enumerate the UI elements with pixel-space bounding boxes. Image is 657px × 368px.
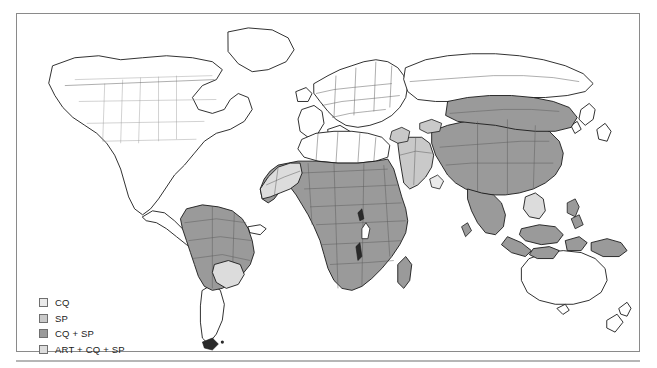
- region-north-africa: [298, 131, 390, 163]
- legend-swatch-art-cq-sp: [39, 345, 48, 354]
- region-south-asia: [462, 189, 506, 237]
- region-madagascar: [398, 257, 412, 289]
- region-southern-cone: [200, 284, 224, 344]
- region-cq-small: [430, 175, 444, 189]
- legend-item-cq-sp: CQ + SP: [39, 326, 125, 342]
- map-frame: CQ SP CQ + SP ART + CQ + SP: [16, 13, 640, 352]
- legend-label-cq-sp: CQ + SP: [55, 329, 94, 339]
- region-russia-siberia: [404, 54, 593, 102]
- region-new-zealand: [607, 302, 631, 332]
- region-caspian-edge: [420, 119, 442, 133]
- region-philippines: [567, 199, 583, 229]
- legend-swatch-cq: [39, 298, 48, 307]
- region-papua-new-guinea: [591, 239, 627, 257]
- map-figure: CQ SP CQ + SP ART + CQ + SP: [0, 0, 657, 368]
- region-middle-east-asia: [432, 96, 578, 195]
- region-north-america: [49, 56, 252, 215]
- legend-swatch-cq-sp: [39, 329, 48, 338]
- map-legend: CQ SP CQ + SP ART + CQ + SP: [39, 295, 125, 357]
- region-arabian-peninsula-rim: [398, 137, 434, 189]
- legend-item-art-cq-sp: ART + CQ + SP: [39, 342, 125, 358]
- legend-item-sp: SP: [39, 311, 125, 327]
- region-australia: [521, 251, 607, 315]
- legend-label-sp: SP: [55, 314, 68, 324]
- region-mainland-southeast-asia: [523, 193, 545, 219]
- region-greenland: [228, 28, 294, 72]
- legend-item-cq: CQ: [39, 295, 125, 311]
- figure-separator-rule: [16, 360, 640, 362]
- legend-label-art-cq-sp: ART + CQ + SP: [55, 345, 125, 355]
- region-levant-turkey-edge: [390, 127, 410, 143]
- legend-label-cq: CQ: [55, 298, 70, 308]
- legend-swatch-sp: [39, 314, 48, 323]
- region-japan-korea: [571, 103, 611, 141]
